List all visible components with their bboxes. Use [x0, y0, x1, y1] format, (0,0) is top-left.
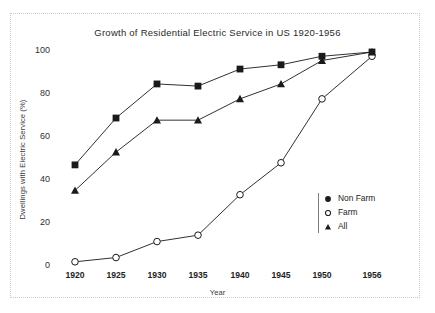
- chart-legend: Non Farm Farm All: [318, 192, 392, 234]
- data-point-square: [278, 61, 285, 68]
- legend-item-non-farm[interactable]: Non Farm: [322, 192, 394, 205]
- series-line: [75, 52, 372, 190]
- legend-label-farm: Farm: [338, 206, 358, 219]
- data-point-open-circle: [278, 159, 285, 166]
- plot-area: [0, 0, 435, 313]
- data-point-triangle: [236, 95, 244, 102]
- data-point-square: [195, 83, 202, 90]
- legend-label-all: All: [338, 220, 347, 233]
- legend-divider: [318, 193, 319, 233]
- filled-circle-icon: [324, 195, 332, 203]
- legend-item-all[interactable]: All: [322, 220, 394, 233]
- data-point-open-circle: [154, 238, 161, 245]
- legend-label-non-farm: Non Farm: [338, 192, 375, 205]
- data-point-square: [72, 161, 79, 168]
- data-point-open-circle: [195, 232, 202, 239]
- data-point-square: [113, 115, 120, 122]
- data-point-open-circle: [319, 96, 326, 103]
- series-line: [75, 52, 372, 165]
- data-point-square: [237, 66, 244, 73]
- legend-item-farm[interactable]: Farm: [322, 206, 394, 219]
- data-point-square: [154, 81, 161, 88]
- filled-triangle-icon: [324, 223, 332, 231]
- data-point-open-circle: [237, 191, 244, 198]
- open-circle-icon: [324, 209, 332, 217]
- chart-figure: Growth of Residential Electric Service i…: [0, 0, 435, 313]
- data-point-open-circle: [113, 254, 120, 261]
- data-point-open-circle: [72, 259, 79, 266]
- data-point-triangle: [112, 148, 120, 155]
- data-point-triangle: [277, 80, 285, 87]
